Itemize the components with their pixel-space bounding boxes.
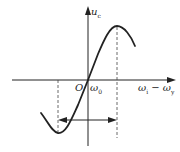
y-label-sub: c (97, 12, 100, 19)
x-axis-label: ωi − ωy (138, 83, 174, 95)
origin-label: O (75, 83, 83, 93)
arrow-right-icon (108, 117, 117, 123)
x-label-sub-2: y (171, 88, 174, 95)
diagram-graphics (0, 0, 180, 152)
center-label-sub: 0 (98, 88, 102, 95)
discriminator-curve-diagram: uc O ω0 ωi − ωy (0, 0, 180, 152)
y-axis-label: uc (91, 7, 101, 19)
x-label-main-2: ω (163, 82, 171, 93)
arrow-left-icon (58, 117, 67, 123)
center-frequency-label: ω0 (90, 83, 102, 95)
origin-text: O (75, 82, 83, 93)
x-label-main-1: ω (138, 82, 146, 93)
center-label-main: ω (90, 82, 98, 93)
x-label-minus: − (148, 82, 163, 93)
